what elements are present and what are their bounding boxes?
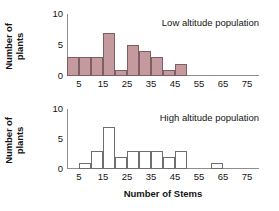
y-axis-title-top-line2: plants: [13, 33, 24, 60]
x-tick-label: 45: [170, 172, 181, 182]
x-tick-label: 25: [122, 79, 133, 89]
histogram-bar: [175, 64, 187, 76]
histogram-bar: [139, 151, 151, 169]
y-axis-title-bottom-line1: Number of: [3, 117, 14, 164]
histogram-bar: [103, 33, 115, 76]
histogram-bar: [175, 151, 187, 169]
y-tick-label: 0: [58, 164, 63, 174]
chart-panel-low-altitude: Number of plants Low altitude population…: [0, 6, 279, 102]
x-tick-label: 5: [76, 172, 81, 182]
x-tick-label: 55: [194, 79, 205, 89]
chart-panel-high-altitude: Number of plants High altitude populatio…: [0, 103, 279, 193]
y-tick-label: 5: [58, 134, 63, 144]
histogram-bar: [79, 163, 91, 169]
x-tick-label: 35: [146, 172, 157, 182]
y-axis-title-bottom-line2: plants: [13, 127, 24, 154]
x-tick-label: 25: [122, 172, 133, 182]
x-tick-label: 15: [98, 172, 109, 182]
x-tick-label: 75: [242, 172, 253, 182]
x-tick-label: 45: [170, 79, 181, 89]
x-axis-title: Number of Stems: [67, 188, 259, 199]
x-tick-label: 15: [98, 79, 109, 89]
y-axis-title-top-line1: Number of: [3, 23, 14, 70]
series-caption-bottom: High altitude population: [160, 113, 259, 123]
histogram-bar: [163, 157, 175, 169]
histogram-bar: [139, 51, 151, 76]
histogram-bar: [103, 127, 115, 169]
series-caption-top: Low altitude population: [162, 18, 259, 28]
x-tick-label: 55: [194, 172, 205, 182]
y-axis-title-bottom: Number of plants: [4, 108, 25, 174]
histogram-bar: [127, 151, 139, 169]
y-tick-label: 10: [52, 104, 63, 114]
histogram-bar: [91, 151, 103, 169]
histogram-bar: [115, 157, 127, 169]
histogram-bar: [163, 70, 175, 76]
y-axis-title-top: Number of plants: [4, 14, 25, 80]
histogram-figure: Number of plants Low altitude population…: [0, 0, 279, 211]
y-tick-label: 5: [58, 40, 63, 50]
x-tick-label: 75: [242, 79, 253, 89]
histogram-bar: [115, 70, 127, 76]
x-tick-label: 65: [218, 79, 229, 89]
x-tick-label: 65: [218, 172, 229, 182]
plot-area-top: Low altitude population 0510515253545556…: [67, 14, 259, 76]
histogram-bar: [151, 57, 163, 76]
histogram-bar: [127, 45, 139, 76]
x-tick-label: 5: [76, 79, 81, 89]
y-tick-label: 0: [58, 71, 63, 81]
histogram-bar: [91, 57, 103, 76]
plot-area-bottom: High altitude population 051051525354555…: [67, 109, 259, 169]
histogram-bar: [211, 163, 223, 169]
y-tick-label: 10: [52, 9, 63, 19]
histogram-bar: [67, 57, 79, 76]
x-tick-label: 35: [146, 79, 157, 89]
histogram-bar: [151, 151, 163, 169]
histogram-bar: [79, 57, 91, 76]
